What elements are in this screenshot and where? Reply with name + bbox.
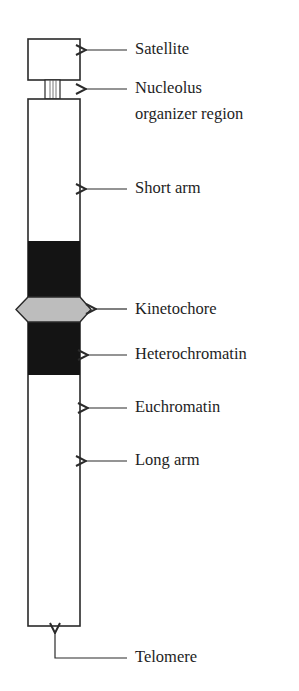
satellite-box: [28, 39, 80, 80]
kinetochore-shape: [16, 297, 91, 322]
label-heterochromatin: Heterochromatin: [135, 344, 247, 364]
label-long-arm: Long arm: [135, 450, 200, 470]
label-euchromatin: Euchromatin: [135, 397, 220, 417]
label-nor-line1: Nucleolus: [135, 78, 202, 98]
label-satellite: Satellite: [135, 39, 189, 59]
arrow-telomere: [55, 633, 127, 658]
label-telomere: Telomere: [135, 647, 197, 667]
label-nor-line2: organizer region: [135, 104, 243, 124]
label-short-arm: Short arm: [135, 178, 201, 198]
nucleolus-organizer-stalk: [45, 80, 60, 99]
label-kinetochore: Kinetochore: [135, 299, 217, 319]
